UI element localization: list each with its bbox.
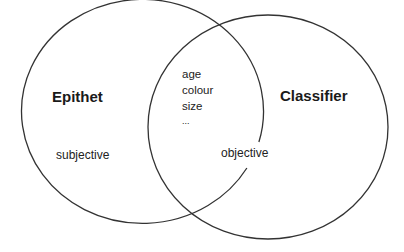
classifier-title: Classifier [280,87,348,104]
overlap-item: age [182,66,213,82]
overlap-item: colour [182,82,213,98]
overlap-item: size [182,98,213,114]
overlap-item: ... [182,114,213,128]
venn-diagram: Epithet subjective Classifier objective … [0,0,404,252]
epithet-circle [22,0,264,223]
classifier-note: objective [221,146,268,160]
epithet-note: subjective [56,148,109,162]
epithet-title: Epithet [52,88,103,105]
overlap-items: age colour size ... [182,66,213,128]
